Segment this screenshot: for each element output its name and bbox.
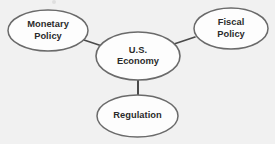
- connector-monetary-to-center: [84, 40, 102, 46]
- node-shape-regulation[interactable]: [97, 95, 178, 137]
- scan-artifact-mark: [52, 0, 56, 4]
- connector-center-to-fiscal: [174, 37, 195, 44]
- node-shape-monetary-policy[interactable]: [8, 10, 88, 51]
- node-shape-group: [8, 8, 268, 137]
- node-shape-us-economy[interactable]: [96, 32, 180, 80]
- diagram-canvas: [0, 0, 275, 144]
- concept-map-diagram: Monetary Policy U.S. Economy Fiscal Poli…: [0, 0, 275, 144]
- node-shape-fiscal-policy[interactable]: [194, 8, 268, 49]
